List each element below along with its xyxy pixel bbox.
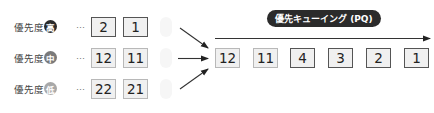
- queue-item-low: 22: [91, 79, 116, 99]
- ghost-slot: [160, 79, 172, 99]
- priority-label: 優先度: [14, 20, 45, 34]
- ellipsis: …: [76, 82, 84, 92]
- ghost-slot: [160, 17, 172, 37]
- priority-label: 優先度: [14, 82, 45, 96]
- priority-badge-high: 高: [44, 20, 57, 33]
- ghost-slot: [160, 48, 172, 68]
- priority-badge-low: 低: [44, 82, 57, 95]
- pq-item: 1: [404, 48, 429, 68]
- queue-item-low: 21: [123, 79, 148, 99]
- queue-item-mid: 12: [91, 48, 116, 68]
- pq-item: 3: [328, 48, 353, 68]
- arrow-high-to-queue: [180, 28, 208, 48]
- queue-item-high: 1: [123, 17, 148, 37]
- priority-badge-mid: 中: [44, 51, 57, 64]
- queue-title: 優先キューイング (PQ): [267, 10, 381, 27]
- pq-item: 2: [366, 48, 391, 68]
- pq-item: 4: [290, 48, 315, 68]
- priority-label: 優先度: [14, 51, 45, 65]
- arrow-low-to-queue: [180, 69, 208, 89]
- queue-item-high: 2: [91, 17, 116, 37]
- queue-item-mid: 11: [123, 48, 148, 68]
- pq-item: 11: [253, 48, 278, 68]
- ellipsis: …: [76, 51, 84, 61]
- ellipsis: …: [76, 20, 84, 30]
- pq-item: 12: [215, 48, 240, 68]
